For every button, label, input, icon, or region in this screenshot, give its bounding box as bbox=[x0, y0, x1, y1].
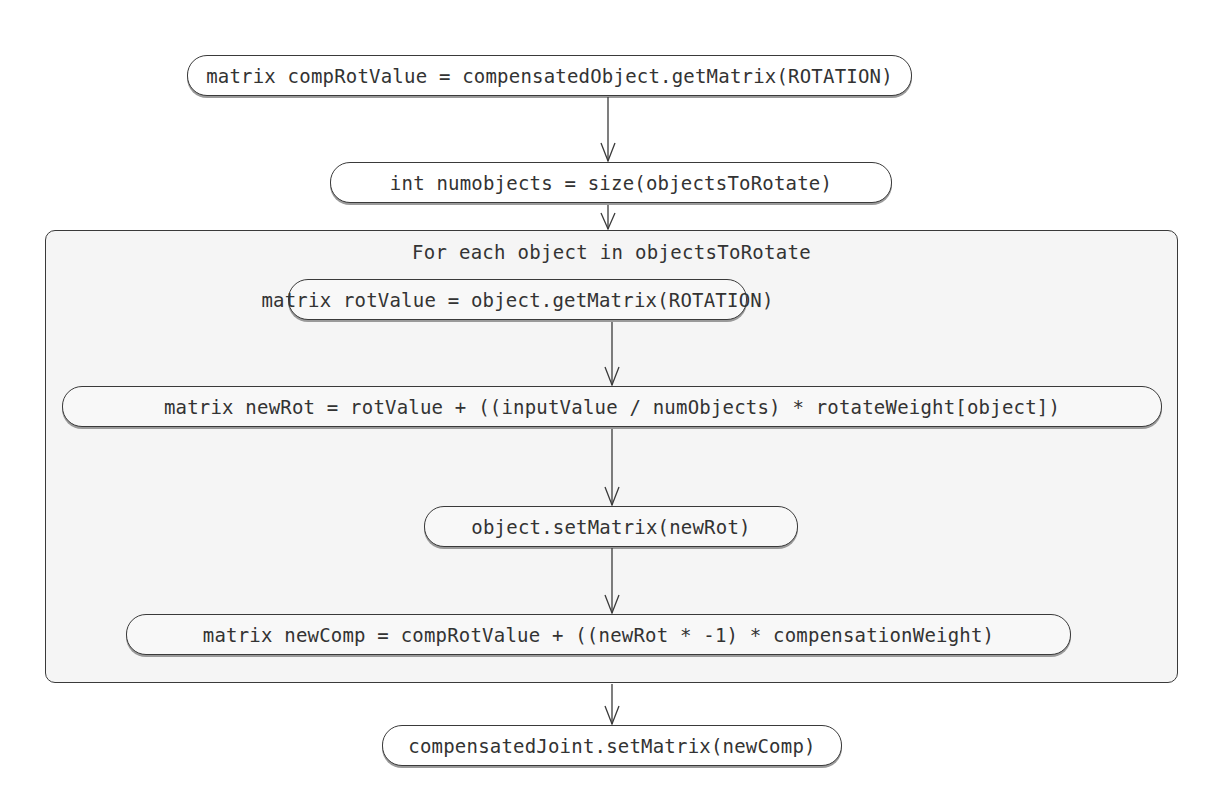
flow-node-set-compensated-joint: compensatedJoint.setMatrix(newComp) bbox=[382, 725, 842, 766]
flow-node-get-comp-rot-value: matrix compRotValue = compensatedObject.… bbox=[187, 55, 912, 96]
node-label: matrix newComp = compRotValue + ((newRot… bbox=[203, 624, 994, 646]
loop-label: For each object in objectsToRotate bbox=[46, 241, 1177, 263]
node-label: compensatedJoint.setMatrix(newComp) bbox=[408, 735, 815, 757]
flow-node-compute-new-comp: matrix newComp = compRotValue + ((newRot… bbox=[126, 614, 1071, 655]
arrowhead-icon bbox=[605, 706, 619, 724]
flow-node-compute-new-rot: matrix newRot = rotValue + ((inputValue … bbox=[62, 386, 1162, 427]
node-label: matrix rotValue = object.getMatrix(ROTAT… bbox=[261, 289, 773, 311]
flowchart-canvas: matrix compRotValue = compensatedObject.… bbox=[0, 0, 1217, 804]
node-label: matrix newRot = rotValue + ((inputValue … bbox=[164, 396, 1060, 418]
arrowhead-icon bbox=[601, 213, 615, 229]
node-label: matrix compRotValue = compensatedObject.… bbox=[206, 65, 893, 87]
flow-node-num-objects: int numobjects = size(objectsToRotate) bbox=[330, 162, 892, 203]
flow-node-set-object-matrix: object.setMatrix(newRot) bbox=[424, 506, 798, 547]
node-label: object.setMatrix(newRot) bbox=[471, 516, 750, 538]
flow-node-get-rot-value: matrix rotValue = object.getMatrix(ROTAT… bbox=[288, 279, 747, 320]
node-label: int numobjects = size(objectsToRotate) bbox=[390, 172, 832, 194]
arrowhead-icon bbox=[601, 143, 615, 161]
